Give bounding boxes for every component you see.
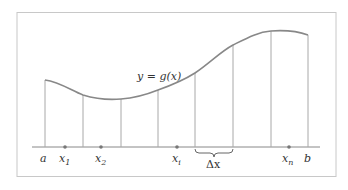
delta-brace xyxy=(195,149,233,157)
label-delta-x: Δx xyxy=(206,158,221,171)
label-b: b xyxy=(304,152,311,165)
curve-label: y = g(x) xyxy=(136,70,181,83)
partition-lines xyxy=(45,31,308,147)
label-xi: xi xyxy=(172,152,181,167)
label-x1: x1 xyxy=(59,152,70,167)
label-x2: x2 xyxy=(95,152,106,167)
curve-g xyxy=(45,31,308,100)
riemann-sum-diagram: y = g(x) a b x1 x2 xi xn Δx xyxy=(0,0,348,190)
label-xn: xn xyxy=(282,152,293,167)
label-a: a xyxy=(40,152,47,165)
